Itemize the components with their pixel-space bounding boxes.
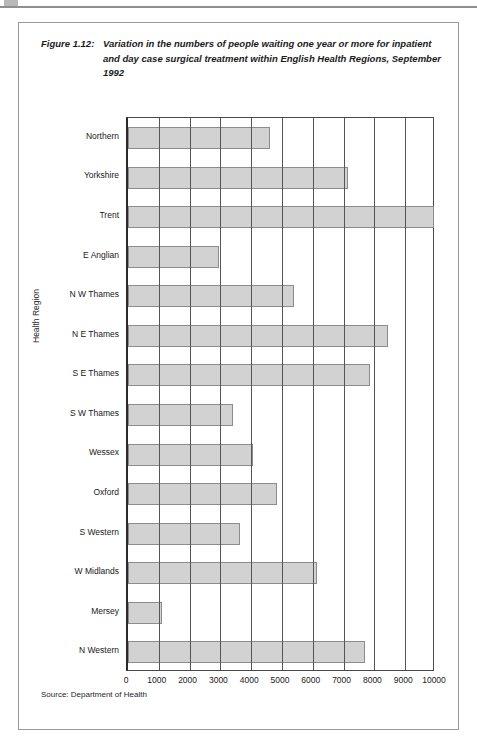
- x-tick-9000: 9000: [394, 675, 413, 685]
- bar-row: [128, 118, 433, 158]
- y-tick-n-e-thames: N E Thames: [72, 329, 119, 339]
- figure-panel: Figure 1.12: Variation in the numbers of…: [18, 22, 459, 730]
- bar-row: [128, 435, 433, 475]
- gridline-2000: [190, 118, 191, 670]
- bar-fill: [128, 641, 365, 663]
- gridline-4000: [251, 118, 252, 670]
- bar-fill: [128, 167, 348, 189]
- y-tick-yorkshire: Yorkshire: [84, 170, 119, 180]
- x-tick-2000: 2000: [178, 675, 197, 685]
- gridline-7000: [344, 118, 345, 670]
- y-tick-n-western: N Western: [79, 645, 119, 655]
- bar-row: [128, 593, 433, 633]
- bar-s-e-thames[interactable]: [128, 364, 370, 386]
- bar-fill: [128, 285, 294, 307]
- y-axis-tick-labels: NorthernYorkshireTrentE AnglianN W Thame…: [19, 117, 119, 671]
- bar-row: [128, 197, 433, 237]
- gridline-9000: [405, 118, 406, 670]
- bar-row: [128, 474, 433, 514]
- bar-fill: [128, 364, 370, 386]
- bar-row: [128, 355, 433, 395]
- bar-yorkshire[interactable]: [128, 167, 348, 189]
- x-axis-tick-labels: 0100020003000400050006000700080009000100…: [126, 675, 434, 691]
- x-tick-3000: 3000: [209, 675, 228, 685]
- bar-row: [128, 158, 433, 198]
- y-tick-w-midlands: W Midlands: [75, 566, 119, 576]
- bar-fill: [128, 562, 317, 584]
- bar-row: [128, 395, 433, 435]
- gridline-5000: [282, 118, 283, 670]
- x-tick-10000: 10000: [422, 675, 446, 685]
- y-tick-trent: Trent: [99, 210, 119, 220]
- figure-title: Variation in the numbers of people waiti…: [103, 37, 441, 81]
- bar-row: [128, 553, 433, 593]
- bar-fill: [128, 483, 277, 505]
- bar-row: [128, 237, 433, 277]
- gridline-8000: [374, 118, 375, 670]
- plot-area: [126, 117, 434, 671]
- bar-n-w-thames[interactable]: [128, 285, 294, 307]
- x-tick-1000: 1000: [147, 675, 166, 685]
- y-tick-s-western: S Western: [79, 527, 119, 537]
- y-tick-s-e-thames: S E Thames: [72, 368, 119, 378]
- bar-fill: [128, 325, 388, 347]
- x-tick-8000: 8000: [363, 675, 382, 685]
- bar-row: [128, 632, 433, 672]
- bar-w-midlands[interactable]: [128, 562, 317, 584]
- y-tick-northern: Northern: [86, 131, 119, 141]
- bar-row: [128, 316, 433, 356]
- bar-fill: [128, 602, 162, 624]
- bar-fill: [128, 127, 270, 149]
- x-tick-4000: 4000: [240, 675, 259, 685]
- source-note: Source: Department of Health: [41, 690, 147, 699]
- y-tick-n-w-thames: N W Thames: [70, 289, 119, 299]
- y-tick-e-anglian: E Anglian: [83, 250, 119, 260]
- bar-row: [128, 514, 433, 554]
- bar-s-western[interactable]: [128, 523, 240, 545]
- bar-s-w-thames[interactable]: [128, 404, 233, 426]
- x-tick-5000: 5000: [271, 675, 290, 685]
- bar-n-western[interactable]: [128, 641, 365, 663]
- bar-fill: [128, 246, 219, 268]
- gridline-1000: [159, 118, 160, 670]
- bar-row: [128, 276, 433, 316]
- bar-oxford[interactable]: [128, 483, 277, 505]
- bar-e-anglian[interactable]: [128, 246, 219, 268]
- bar-mersey[interactable]: [128, 602, 162, 624]
- x-tick-7000: 7000: [332, 675, 351, 685]
- bar-chart: Health Region NorthernYorkshireTrentE An…: [19, 81, 460, 701]
- y-tick-wessex: Wessex: [89, 447, 119, 457]
- bar-fill: [128, 404, 233, 426]
- x-tick-6000: 6000: [301, 675, 320, 685]
- y-tick-s-w-thames: S W Thames: [70, 408, 119, 418]
- gridline-6000: [313, 118, 314, 670]
- x-tick-0: 0: [124, 675, 129, 685]
- page-top-rule: [0, 6, 477, 8]
- bar-n-e-thames[interactable]: [128, 325, 388, 347]
- y-tick-mersey: Mersey: [91, 606, 119, 616]
- figure-caption: Figure 1.12: Variation in the numbers of…: [41, 37, 441, 81]
- bar-rows: [128, 118, 433, 670]
- y-tick-oxford: Oxford: [93, 487, 119, 497]
- bar-fill: [128, 523, 240, 545]
- figure-number: Figure 1.12:: [41, 37, 103, 52]
- bar-northern[interactable]: [128, 127, 270, 149]
- gridline-3000: [220, 118, 221, 670]
